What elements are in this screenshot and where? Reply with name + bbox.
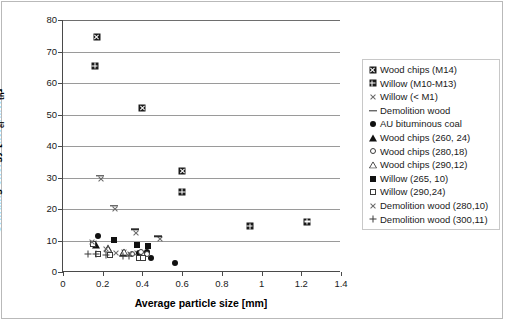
y-tick-mark — [58, 178, 63, 179]
legend-item[interactable]: AU bituminous coal — [367, 117, 496, 131]
legend-label: AU bituminous coal — [380, 119, 462, 129]
marker-x-icon — [111, 206, 118, 213]
marker-filled-circle-icon — [370, 121, 376, 127]
y-tick-label: 80 — [11, 15, 57, 25]
marker-filled-circle-icon — [148, 255, 154, 261]
x-tick-mark — [222, 272, 223, 276]
marker-plus-icon — [102, 251, 109, 258]
legend-item[interactable]: Wood chips (280,18) — [367, 145, 496, 159]
y-tick-label: 20 — [11, 204, 57, 214]
legend-marker — [367, 132, 378, 143]
x-tick-label: 0.8 — [215, 278, 228, 289]
grinding-energy-scatter-chart: Grinding energy [kWel/MWth] Average part… — [0, 0, 505, 321]
y-tick-mark — [58, 115, 63, 116]
legend-label: Wood chips (290,12) — [380, 160, 468, 170]
gridline — [63, 20, 340, 21]
y-tick-label: 0 — [11, 267, 57, 277]
legend-marker — [367, 78, 378, 89]
x-tick-label: 1 — [259, 278, 264, 289]
marker-x-icon — [88, 239, 95, 246]
marker-x-icon — [369, 202, 376, 209]
legend-marker — [367, 64, 378, 75]
legend-marker — [367, 91, 378, 102]
legend-marker — [367, 146, 378, 157]
x-tick-mark — [103, 272, 104, 276]
legend-item[interactable]: Willow (290,24) — [367, 185, 496, 199]
gridline — [63, 83, 340, 84]
y-tick-mark — [58, 241, 63, 242]
chart-legend: Wood chips (M14)Willow (M10-M13)Willow (… — [362, 59, 500, 230]
gridline — [63, 178, 340, 179]
legend-marker — [367, 214, 378, 225]
x-tick-label: 1.4 — [334, 278, 347, 289]
marker-boxed-x-icon — [139, 105, 146, 112]
marker-x-icon — [112, 250, 119, 257]
marker-plus-icon — [92, 251, 99, 258]
plot-area: 01020304050607080 00.20.40.60.811.21.4 — [62, 20, 340, 272]
marker-boxed-plus-icon — [179, 188, 186, 195]
marker-dash-icon — [369, 110, 377, 111]
marker-boxed-x-icon — [93, 34, 100, 41]
marker-open-circle-icon — [370, 148, 376, 154]
marker-filled-triangle-icon — [369, 134, 377, 141]
x-tick-mark — [142, 272, 143, 276]
marker-open-triangle-icon — [369, 161, 377, 168]
legend-label: Willow (265, 10) — [380, 174, 448, 184]
gridline — [63, 52, 340, 53]
y-tick-label: 40 — [11, 141, 57, 151]
y-tick-mark — [58, 146, 63, 147]
legend-item[interactable]: Willow (< M1) — [367, 90, 496, 104]
x-tick-label: 0.6 — [176, 278, 189, 289]
legend-marker — [367, 119, 378, 130]
legend-marker — [367, 173, 378, 184]
marker-dash-icon — [131, 229, 139, 230]
x-tick-mark — [301, 272, 302, 276]
x-tick-label: 0.2 — [96, 278, 109, 289]
legend-label: Demolition wood — [380, 106, 450, 116]
gridline — [63, 115, 340, 116]
y-tick-mark — [58, 209, 63, 210]
legend-item[interactable]: Demolition wood (280,10) — [367, 199, 496, 213]
x-tick-label: 1.2 — [295, 278, 308, 289]
x-axis-title: Average particle size [mm] — [62, 297, 340, 309]
y-tick-mark — [58, 83, 63, 84]
legend-label: Wood chips (M14) — [380, 65, 457, 75]
marker-filled-circle-icon — [95, 233, 101, 239]
gridline — [63, 241, 340, 242]
legend-label: Willow (M10-M13) — [380, 79, 457, 89]
x-tick-label: 0.4 — [136, 278, 149, 289]
legend-marker — [367, 200, 378, 211]
y-tick-mark — [58, 52, 63, 53]
marker-boxed-plus-icon — [369, 80, 376, 87]
legend-item[interactable]: Wood chips (260, 24) — [367, 131, 496, 145]
marker-boxed-plus-icon — [246, 223, 253, 230]
legend-item[interactable]: Demolition wood — [367, 104, 496, 118]
marker-plus-icon — [84, 250, 91, 257]
marker-filled-square-icon — [145, 243, 151, 249]
x-tick-mark — [182, 272, 183, 276]
y-axis-title: Grinding energy [kWel/MWth] — [0, 88, 6, 232]
legend-item[interactable]: Willow (265, 10) — [367, 172, 496, 186]
legend-item[interactable]: Willow (M10-M13) — [367, 77, 496, 91]
marker-dash-icon — [110, 205, 118, 206]
legend-label: Willow (290,24) — [380, 187, 445, 197]
gridline — [63, 146, 340, 147]
y-tick-label: 30 — [11, 173, 57, 183]
marker-plus-icon — [369, 216, 376, 223]
legend-item[interactable]: Wood chips (290,12) — [367, 158, 496, 172]
marker-filled-circle-icon — [172, 260, 178, 266]
marker-x-icon — [369, 93, 376, 100]
marker-boxed-x-icon — [369, 66, 376, 73]
legend-item[interactable]: Wood chips (M14) — [367, 63, 496, 77]
y-tick-label: 10 — [11, 236, 57, 246]
legend-item[interactable]: Demolition wood (300,11) — [367, 213, 496, 227]
marker-x-icon — [133, 229, 140, 236]
legend-label: Willow (< M1) — [380, 92, 438, 102]
legend-marker — [367, 159, 378, 170]
y-tick-label: 60 — [11, 78, 57, 88]
x-tick-label: 0 — [60, 278, 65, 289]
marker-boxed-plus-icon — [91, 62, 98, 69]
legend-label: Wood chips (260, 24) — [380, 133, 470, 143]
y-tick-label: 70 — [11, 47, 57, 57]
gridline — [63, 209, 340, 210]
